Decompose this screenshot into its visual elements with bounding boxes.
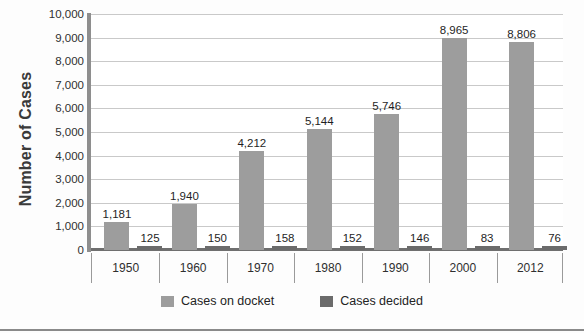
y-axis-tick-label: 2,000 — [55, 197, 84, 209]
bar-group: 1,181125 — [91, 14, 158, 250]
legend-item[interactable]: Cases decided — [320, 294, 423, 308]
y-axis-tick-label: 7,000 — [55, 79, 84, 91]
bar-value-label: 125 — [140, 232, 159, 244]
bar-cases-on-docket[interactable] — [509, 42, 534, 250]
bar-value-label: 152 — [343, 232, 362, 244]
bar-value-label: 158 — [275, 232, 294, 244]
bar-cases-on-docket[interactable] — [104, 222, 129, 250]
bar-cases-on-docket[interactable] — [374, 114, 399, 250]
bar-value-label: 8,806 — [507, 28, 536, 40]
y-axis-tick-label: 1,000 — [55, 220, 84, 232]
legend-swatch-icon — [320, 296, 333, 307]
bar-group: 8,80676 — [496, 14, 563, 250]
y-axis-tick-label: 8,000 — [55, 55, 84, 67]
y-axis-tick-label: 10,000 — [49, 8, 84, 20]
x-axis-category-label: 1950 — [92, 253, 159, 283]
legend-swatch-icon — [161, 296, 174, 307]
x-axis-category-label: 2000 — [429, 253, 496, 283]
bar-value-label: 76 — [548, 232, 561, 244]
plot-area: 1,1811251,9401504,2121585,1441525,746146… — [91, 14, 563, 250]
bar-chart: Number of Cases 01,0002,0003,0004,0005,0… — [0, 0, 584, 333]
category-separator — [294, 253, 295, 283]
bar-cases-on-docket[interactable] — [307, 129, 332, 250]
bottom-border-rule — [0, 329, 584, 331]
y-axis-tick-label: 9,000 — [55, 32, 84, 44]
bar-group: 1,940150 — [158, 14, 225, 250]
bar-value-label: 1,181 — [103, 208, 132, 220]
y-axis-tick-label: 4,000 — [55, 150, 84, 162]
bar-value-label: 8,965 — [440, 24, 469, 36]
legend-item[interactable]: Cases on docket — [161, 294, 274, 308]
x-axis-category-label: 1980 — [294, 253, 361, 283]
category-separator — [429, 253, 430, 283]
bar-value-label: 4,212 — [237, 137, 266, 149]
bar-cases-decided[interactable] — [542, 246, 567, 250]
y-axis-tick-label: 0 — [78, 244, 84, 256]
bar-value-label: 146 — [410, 232, 429, 244]
bar-value-label: 5,746 — [372, 100, 401, 112]
chart-legend: Cases on docketCases decided — [0, 294, 584, 308]
bar-value-label: 83 — [481, 232, 494, 244]
bar-cases-on-docket[interactable] — [442, 38, 467, 250]
category-separator — [227, 253, 228, 283]
x-axis-category-label: 1970 — [227, 253, 294, 283]
bar-cases-on-docket[interactable] — [239, 151, 264, 250]
bar-value-label: 1,940 — [170, 190, 199, 202]
x-axis-category-band: 1950196019701980199020002012 — [91, 253, 563, 283]
category-separator — [362, 253, 363, 283]
category-separator — [497, 253, 498, 283]
bar-group: 4,212158 — [226, 14, 293, 250]
y-axis-tick-label: 6,000 — [55, 102, 84, 114]
y-axis-tick-labels: 01,0002,0003,0004,0005,0006,0007,0008,00… — [28, 14, 84, 250]
x-axis-category-label: 1960 — [159, 253, 226, 283]
x-axis-category-label: 2012 — [497, 253, 564, 283]
bar-cases-on-docket[interactable] — [172, 204, 197, 250]
legend-label: Cases on docket — [181, 294, 274, 308]
bar-group: 8,96583 — [428, 14, 495, 250]
bar-group: 5,144152 — [293, 14, 360, 250]
bar-value-label: 5,144 — [305, 115, 334, 127]
category-separator — [159, 253, 160, 283]
legend-label: Cases decided — [340, 294, 423, 308]
bar-value-label: 150 — [208, 232, 227, 244]
y-axis-tick-label: 3,000 — [55, 173, 84, 185]
x-axis-category-label: 1990 — [362, 253, 429, 283]
y-axis-tick-label: 5,000 — [55, 126, 84, 138]
bar-group: 5,746146 — [361, 14, 428, 250]
